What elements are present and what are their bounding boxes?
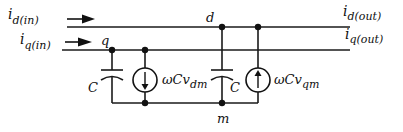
label-iq-out: iq(out) (345, 26, 383, 46)
label-id-in: id(in) (8, 6, 39, 27)
source-2-label: ωCvqm (274, 72, 319, 91)
node-label-q: q (101, 33, 109, 48)
junction-dot-m (219, 100, 225, 106)
node-label-d: d (206, 10, 214, 25)
arrow-icon-q-in (65, 38, 92, 47)
circuit-diagram: id(in) iq(in) q d m C ωCvdm (0, 0, 403, 132)
junction-dot-d2 (255, 24, 261, 30)
current-source-2 (246, 27, 270, 103)
junction-dot-q (109, 47, 115, 53)
current-source-1 (133, 50, 157, 103)
capacitor-1-label: C (88, 80, 98, 95)
capacitor-2-label: C (230, 80, 240, 95)
junction-dot-bottom (142, 100, 148, 106)
source-1-label: ωCvdm (162, 72, 207, 91)
node-label-m: m (217, 111, 229, 126)
capacitor-1 (101, 50, 123, 103)
label-id-out: id(out) (343, 3, 381, 23)
junction-dot-q2 (142, 47, 148, 53)
junction-dot-d (219, 24, 225, 30)
label-iq-in: iq(in) (20, 31, 51, 52)
arrow-icon-d-in (67, 15, 95, 24)
